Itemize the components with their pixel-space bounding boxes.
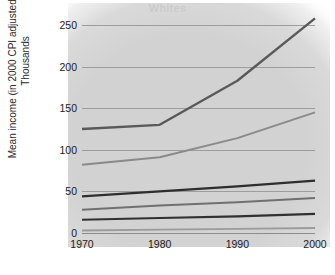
data-line-series xyxy=(82,228,315,230)
x-axis-tick-label: 1990 xyxy=(226,238,249,250)
x-axis-line xyxy=(82,233,315,234)
data-line-series xyxy=(82,18,315,129)
y-axis-tick-label: 150 xyxy=(59,102,77,114)
y-axis-tick-label: 200 xyxy=(59,61,77,73)
chart-container: Whites Mean income (in 2000 CPI adjusted… xyxy=(0,0,335,275)
y-axis-title: Mean income (in 2000 CPI adjusted dollar… xyxy=(0,0,38,171)
x-axis-tick-label: 2000 xyxy=(303,238,326,250)
y-axis-title-line1: Mean income (in 2000 CPI adjusted dollar… xyxy=(6,0,19,158)
data-line-series xyxy=(82,112,315,164)
x-axis-tick-label: 1970 xyxy=(70,238,93,250)
data-line-series xyxy=(82,181,315,197)
data-line-series xyxy=(82,214,315,220)
x-axis-tick-label: 1980 xyxy=(148,238,171,250)
y-axis-tick-label: 50 xyxy=(65,185,77,197)
data-series-group xyxy=(82,15,315,233)
data-line-series xyxy=(82,198,315,210)
y-axis-tick-label: 100 xyxy=(59,144,77,156)
y-axis-tick-label: 250 xyxy=(59,19,77,31)
y-axis-title-line2: Thousands xyxy=(19,36,32,85)
plot-area: 050100150200250 xyxy=(82,15,315,233)
